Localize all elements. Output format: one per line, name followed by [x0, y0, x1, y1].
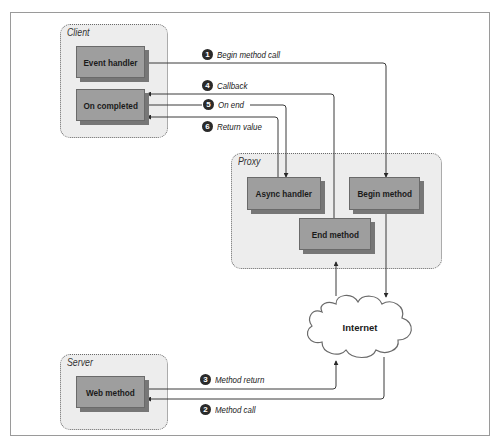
step-text: Callback	[217, 81, 247, 91]
on-completed-node: On completed	[76, 89, 145, 121]
begin-method-label: Begin method	[357, 188, 411, 199]
event-handler-label: Event handler	[83, 57, 137, 68]
step-number-badge: 2	[200, 404, 211, 415]
step-4-label: 4 Callback	[202, 80, 254, 91]
step-1-label: 1 Begin method call	[202, 49, 291, 60]
step-text: Method call	[215, 405, 256, 415]
async-handler-node: Async handler	[247, 177, 321, 210]
event-handler-node: Event handler	[76, 46, 145, 78]
web-method-node: Web method	[76, 376, 145, 408]
end-method-label: End method	[311, 229, 358, 240]
step-number-badge: 4	[202, 80, 213, 91]
step-text: Begin method call	[217, 50, 280, 60]
step-5-label: 5 On end	[202, 99, 250, 110]
step-2-label: 2 Method call	[200, 404, 263, 415]
step-6-label: 6 Return value	[202, 121, 270, 132]
on-completed-label: On completed	[83, 100, 137, 111]
step-number-badge: 5	[203, 99, 214, 110]
step-text: Return value	[217, 122, 262, 132]
async-handler-label: Async handler	[256, 188, 312, 199]
step-number-badge: 1	[202, 49, 213, 60]
web-method-label: Web method	[86, 387, 135, 398]
step-text: On end	[218, 100, 244, 110]
step-text: Method return	[215, 375, 264, 385]
end-method-node: End method	[299, 218, 371, 250]
internet-label: Internet	[330, 322, 390, 333]
step-number-badge: 3	[200, 374, 211, 385]
begin-method-node: Begin method	[349, 177, 420, 210]
step-number-badge: 6	[202, 121, 213, 132]
step-3-label: 3 Method return	[200, 374, 273, 385]
